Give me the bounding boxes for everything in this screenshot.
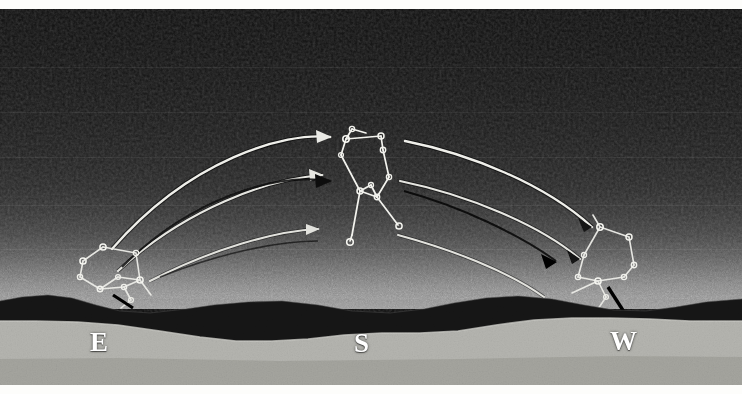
arrowhead-icon [316,130,332,143]
plate-image-area: E S W [0,9,742,385]
astronomical-plate: E S W [0,0,742,394]
arrowhead-icon [306,224,320,235]
foreground-grain-texture [0,299,742,385]
arrowhead-icon [315,174,332,188]
